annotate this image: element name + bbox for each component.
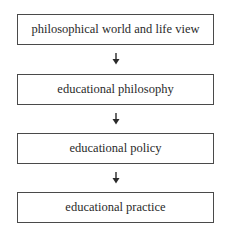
node-label: educational practice [65, 200, 165, 215]
arrow-down-icon [111, 113, 121, 125]
node-educational-practice: educational practice [17, 192, 214, 223]
node-label: educational policy [70, 141, 162, 156]
node-philosophical-world-and-life-view: philosophical world and life view [17, 14, 214, 45]
node-educational-policy: educational policy [17, 133, 214, 164]
arrow-down-icon [111, 172, 121, 184]
node-label: philosophical world and life view [31, 22, 199, 37]
arrow-down-icon [111, 53, 121, 65]
node-educational-philosophy: educational philosophy [17, 74, 214, 105]
node-label: educational philosophy [57, 82, 173, 97]
